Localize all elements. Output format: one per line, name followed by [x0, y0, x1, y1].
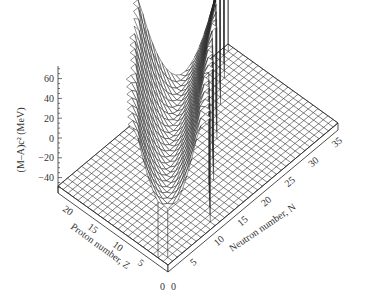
- neutron-tick-label: 15: [235, 214, 250, 229]
- neutron-tick-label: 25: [282, 174, 297, 189]
- neutron-tick-label: 35: [329, 135, 344, 150]
- origin-label-n: 0: [171, 281, 176, 292]
- z-tick-label: 0: [49, 133, 54, 144]
- origin-label-z: 0: [160, 281, 165, 292]
- z-axis-title: (M–A)c² (MeV): [15, 108, 27, 173]
- z-tick-label: 40: [44, 93, 54, 104]
- neutron-tick-label: 10: [211, 233, 226, 248]
- z-tick-label: 20: [44, 113, 54, 124]
- surface-plot: 6040200−20−40 5101520 5101520253035 (M–A…: [0, 0, 368, 295]
- neutron-tick-label: 30: [306, 154, 321, 169]
- neutron-tick-label: 20: [259, 194, 274, 209]
- z-tick-label: 60: [44, 73, 54, 84]
- z-tick-label: −20: [38, 152, 54, 163]
- z-axis-ticks: 6040200−20−40: [38, 69, 62, 188]
- proton-tick-label: 20: [61, 203, 76, 218]
- neutron-tick-label: 5: [188, 256, 199, 268]
- z-tick-label: −40: [38, 172, 54, 183]
- proton-tick-label: 5: [136, 257, 147, 269]
